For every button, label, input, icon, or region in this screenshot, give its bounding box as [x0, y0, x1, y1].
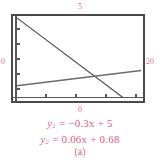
equation-y2-subscript: 2 [45, 138, 49, 146]
axis-label-right: 20 [146, 57, 154, 66]
axis-label-top: 5 [0, 2, 160, 11]
equation-y1-subscript: 1 [52, 122, 56, 130]
plot-lines [13, 16, 143, 101]
figure-container: 5 0 20 0 y1 [0, 0, 160, 162]
line-y1 [17, 18, 123, 97]
equation-list: y1 = −0.3x + 5 y2 = 0.06x + 0.68 [0, 117, 160, 149]
axis-label-left: 0 [1, 57, 5, 66]
graph-plot-area [13, 16, 143, 101]
equation-y2-expression: 0.06x + 0.68 [62, 133, 120, 145]
equation-y2-equals: = [52, 133, 58, 145]
line-y2 [17, 70, 141, 85]
axis-label-bottom: 0 [0, 105, 160, 114]
figure-caption: (a) [0, 146, 160, 158]
equation-y1-expression: −0.3x + 5 [68, 117, 112, 129]
equation-y1-equals: = [59, 117, 65, 129]
graph-screen [11, 14, 145, 103]
equation-y1: y1 = −0.3x + 5 [0, 117, 160, 133]
